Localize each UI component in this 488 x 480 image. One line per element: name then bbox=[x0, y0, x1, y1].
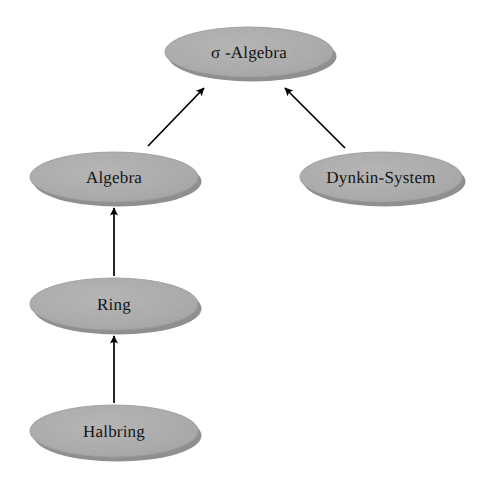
node-dynkin-system[interactable] bbox=[300, 152, 466, 207]
node-sigma-algebra[interactable] bbox=[165, 27, 337, 82]
node-algebra[interactable] bbox=[30, 152, 202, 207]
node-ellipse-halbring[interactable] bbox=[30, 405, 198, 457]
diagram-graphics bbox=[0, 0, 488, 480]
node-ellipse-dynkin-system[interactable] bbox=[300, 152, 462, 202]
node-halbring[interactable] bbox=[30, 405, 202, 462]
diagram-canvas: σ -AlgebraAlgebraDynkin-SystemRingHalbri… bbox=[0, 0, 488, 480]
node-ellipse-ring[interactable] bbox=[30, 278, 198, 330]
arrow-algebra-to-sigma-algebra bbox=[148, 88, 204, 146]
node-ellipse-algebra[interactable] bbox=[30, 152, 198, 202]
node-ellipse-sigma-algebra[interactable] bbox=[165, 27, 333, 77]
arrow-dynkin-system-to-sigma-algebra bbox=[285, 88, 345, 148]
node-ring[interactable] bbox=[30, 278, 202, 335]
node-layer bbox=[30, 27, 466, 462]
edge-layer bbox=[114, 88, 345, 403]
